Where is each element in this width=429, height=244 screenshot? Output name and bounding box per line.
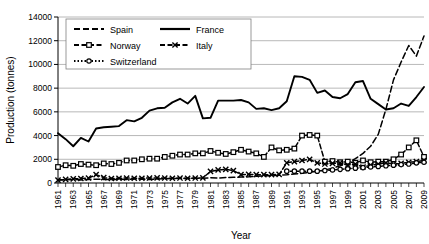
data-point-marker (147, 156, 152, 161)
data-point-marker (300, 169, 304, 173)
data-point-marker (323, 168, 327, 172)
data-point-marker (239, 148, 244, 153)
data-point-marker (79, 162, 84, 167)
data-point-marker (178, 152, 183, 157)
data-point-marker (406, 145, 411, 150)
data-point-marker (132, 158, 137, 163)
data-point-marker (254, 151, 259, 156)
data-point-marker (101, 161, 106, 166)
data-point-marker (284, 148, 289, 153)
x-tick-label: 1963 (68, 190, 78, 209)
x-tick-label: 1995 (312, 190, 322, 209)
x-tick-label: 1961 (53, 190, 63, 209)
x-axis-title: Year (231, 230, 252, 241)
data-point-marker (376, 164, 380, 168)
data-point-marker (361, 158, 366, 163)
x-tick-label: 1983 (221, 190, 231, 209)
legend-label: Norway (110, 41, 141, 51)
data-point-marker (300, 133, 305, 138)
data-point-marker (117, 161, 122, 166)
data-point-marker (292, 146, 297, 151)
legend-label: Spain (110, 25, 133, 35)
data-point-marker (216, 150, 221, 155)
data-point-marker (87, 59, 91, 63)
y-tick-label: 6000 (33, 107, 52, 117)
data-point-marker (262, 155, 267, 160)
y-tick-label: 14000 (28, 12, 52, 22)
data-point-marker (87, 43, 92, 48)
data-point-marker (315, 169, 319, 173)
line-chart: 0200040006000800010000120001400019611963… (0, 0, 429, 244)
x-tick-label: 1971 (129, 190, 139, 209)
data-point-marker (315, 133, 320, 138)
legend-label: Switzerland (110, 57, 157, 67)
x-tick-label: 1999 (343, 190, 353, 209)
data-point-marker (94, 163, 99, 168)
y-tick-label: 10000 (28, 59, 52, 69)
x-tick-label: 1969 (114, 190, 124, 209)
data-point-marker (193, 151, 198, 156)
x-tick-label: 2003 (373, 190, 383, 209)
data-point-marker (223, 152, 228, 157)
data-point-marker (391, 157, 396, 162)
y-tick-label: 4000 (33, 131, 52, 141)
x-tick-label: 2009 (419, 190, 429, 209)
data-point-marker (285, 169, 289, 173)
chart-container: 0200040006000800010000120001400019611963… (0, 0, 429, 244)
data-point-marker (71, 164, 76, 169)
data-point-marker (330, 168, 334, 172)
data-point-marker (346, 167, 350, 171)
data-point-marker (399, 152, 404, 157)
y-tick-label: 8000 (33, 83, 52, 93)
data-point-marker (170, 153, 175, 158)
data-point-marker (201, 151, 206, 156)
data-point-marker (208, 149, 213, 154)
x-tick-label: 2007 (404, 190, 414, 209)
x-tick-label: 1981 (206, 190, 216, 209)
data-point-marker (56, 165, 61, 170)
x-tick-label: 1965 (84, 190, 94, 209)
data-point-marker (185, 152, 190, 157)
data-point-marker (292, 169, 296, 173)
data-point-marker (422, 160, 426, 164)
data-point-marker (399, 162, 403, 166)
x-tick-label: 1973 (145, 190, 155, 209)
data-point-marker (361, 165, 365, 169)
x-tick-label: 1989 (267, 190, 277, 209)
data-point-marker (231, 150, 236, 155)
data-point-marker (109, 162, 114, 167)
x-tick-label: 1967 (99, 190, 109, 209)
x-tick-label: 1997 (328, 190, 338, 209)
x-tick-label: 1977 (175, 190, 185, 209)
x-tick-label: 2005 (389, 190, 399, 209)
data-point-marker (277, 148, 282, 153)
x-tick-label: 1975 (160, 190, 170, 209)
data-point-marker (368, 165, 372, 169)
data-point-marker (353, 166, 357, 170)
data-point-marker (407, 162, 411, 166)
y-axis-title: Production (tonnes) (5, 56, 16, 143)
data-point-marker (140, 157, 145, 162)
data-point-marker (414, 138, 419, 143)
data-point-marker (391, 163, 395, 167)
data-point-marker (246, 149, 251, 154)
data-point-marker (307, 133, 312, 138)
x-tick-label: 2001 (358, 190, 368, 209)
x-tick-label: 1993 (297, 190, 307, 209)
y-tick-label: 12000 (28, 36, 52, 46)
data-point-marker (86, 162, 91, 167)
x-tick-label: 1991 (282, 190, 292, 209)
data-point-marker (124, 158, 129, 163)
x-tick-label: 1979 (190, 190, 200, 209)
data-point-marker (155, 156, 160, 161)
data-point-marker (307, 169, 311, 173)
legend-label: France (196, 25, 224, 35)
data-point-marker (384, 164, 388, 168)
data-point-marker (414, 161, 418, 165)
legend-label: Italy (196, 41, 213, 51)
x-tick-label: 1987 (251, 190, 261, 209)
series-norway (56, 133, 427, 170)
x-tick-label: 1985 (236, 190, 246, 209)
data-point-marker (338, 167, 342, 171)
data-point-marker (63, 163, 68, 168)
